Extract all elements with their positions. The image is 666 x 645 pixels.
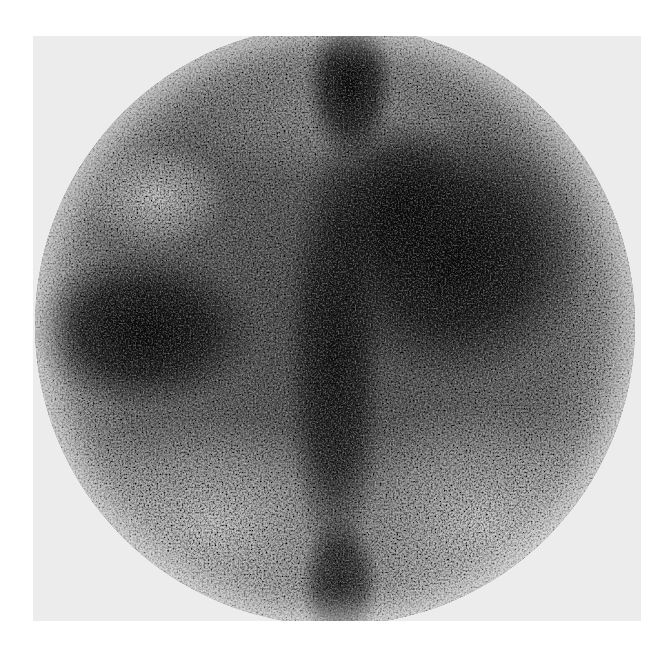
scan-frame — [33, 36, 641, 621]
image-canvas — [0, 0, 666, 645]
scintigraphy-field-of-view — [35, 36, 635, 621]
scan-activity-map — [35, 36, 635, 621]
